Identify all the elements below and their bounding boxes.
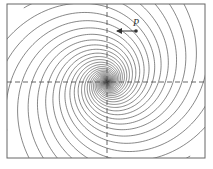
point-p-marker [134,29,138,33]
spiral-curves [0,0,213,169]
point-p-label: P [132,17,139,28]
diagram-canvas: P [0,0,213,169]
spiral-curve [28,34,136,169]
spiral-curve [65,57,213,152]
spiral-curve [58,0,168,119]
spiral-diagram: P [0,0,213,169]
